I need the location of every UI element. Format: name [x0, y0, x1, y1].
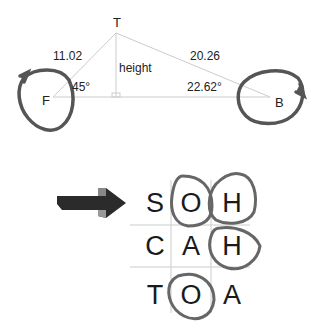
- grid-cell: C: [140, 233, 170, 260]
- vertex-label-b: B: [275, 96, 284, 109]
- height-label: height: [119, 62, 152, 74]
- angle-f-label: 45°: [72, 81, 90, 93]
- angle-b-label: 22.62°: [187, 81, 222, 93]
- grid-cell: O: [176, 190, 206, 217]
- grid-cell: A: [217, 282, 247, 309]
- grid-cell: A: [176, 233, 206, 260]
- side-length-tb: 20.26: [190, 50, 220, 62]
- grid-cell: S: [140, 190, 170, 217]
- grid-cell: H: [217, 190, 247, 217]
- side-length-ft: 11.02: [53, 50, 82, 62]
- vertex-label-t: T: [113, 16, 121, 29]
- grid-cell: T: [140, 282, 170, 309]
- arrow-right-icon: [57, 188, 126, 218]
- grid-cell: O: [176, 282, 206, 309]
- vertex-label-f: F: [42, 94, 50, 107]
- grid-cell: H: [217, 233, 247, 260]
